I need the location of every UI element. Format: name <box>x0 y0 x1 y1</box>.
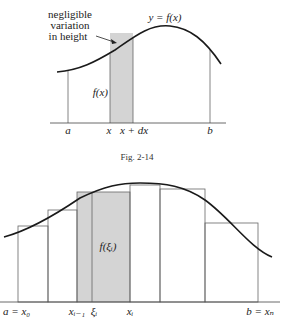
label-x-i-minus-1: xᵢ₋₁ <box>68 305 85 317</box>
label-x-i: xᵢ <box>126 305 134 317</box>
annotation-line-3: in height <box>49 30 88 42</box>
label-b: b <box>207 124 213 136</box>
label-a-x0: a = x₀ <box>3 305 30 317</box>
rect-2 <box>48 210 77 302</box>
rect-1 <box>18 226 48 302</box>
figure-caption: Fig. 2-14 <box>120 152 154 162</box>
label-x-plus-dx: x + dx <box>119 124 148 136</box>
label-a: a <box>65 124 71 136</box>
label-x: x <box>106 124 112 136</box>
bottom-figure: f(ξᵢ) a = x₀ xᵢ₋₁ ξᵢ xᵢ b = xₙ <box>0 183 280 318</box>
top-figure: negligible variation in height y = f(x) … <box>48 8 226 136</box>
rect-height-label: f(ξᵢ) <box>100 240 117 253</box>
riemann-figures: negligible variation in height y = f(x) … <box>0 0 284 335</box>
rect-6 <box>205 223 258 302</box>
curve-f-bottom <box>4 183 272 257</box>
label-xi: ξᵢ <box>91 305 98 318</box>
label-b-xn: b = xₙ <box>246 305 274 317</box>
curve-label: y = f(x) <box>147 11 181 24</box>
rect-4 <box>130 185 160 302</box>
shaded-strip <box>110 33 133 123</box>
rect-5 <box>160 189 205 302</box>
strip-height-label: f(x) <box>93 86 109 99</box>
